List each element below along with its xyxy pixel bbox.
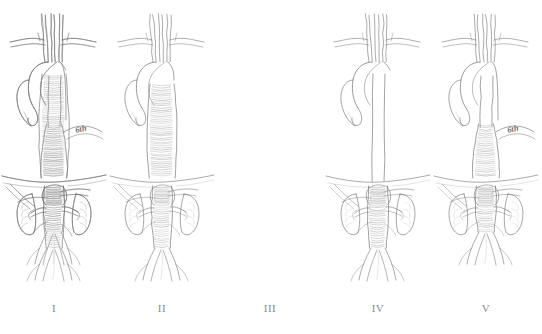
level-marker-label: 6th [506, 122, 520, 135]
panel-label-3: III [216, 302, 324, 314]
panel-illustration: 6th [432, 0, 540, 334]
crawford-classification-figure: 6th 6th I II III IV V [0, 0, 542, 334]
panel-label-2: II [108, 302, 216, 314]
panel-extent-iii: 6th [0, 0, 108, 334]
panel-label-4: IV [324, 302, 432, 314]
panel-label-5: V [432, 302, 540, 314]
panel-illustration: 6th [0, 0, 108, 334]
panel-label-1: I [0, 302, 108, 314]
level-marker-label: 6th [74, 122, 88, 135]
panel-illustration [108, 0, 216, 334]
panel-extent-v: 6th [432, 0, 540, 334]
panel-extent-ii [108, 0, 216, 334]
panel-illustration [324, 0, 432, 334]
panel-extent-iv [324, 0, 432, 334]
